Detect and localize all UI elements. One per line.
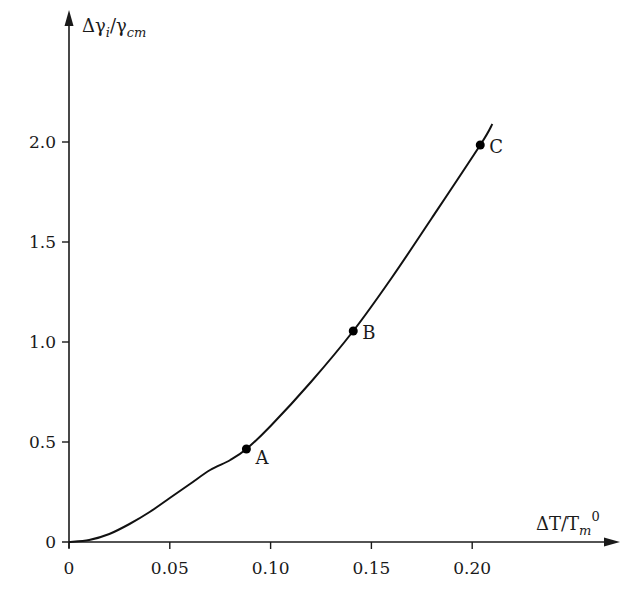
x-tick-label: 0	[64, 558, 75, 578]
y-tick-label: 1.5	[29, 232, 56, 252]
y-tick-label: 2.0	[29, 132, 56, 152]
x-tick-label: 0.15	[352, 558, 390, 578]
y-axis-arrow-icon	[65, 10, 74, 26]
x-axis-label: ΔT/Tm0	[536, 509, 600, 538]
y-axis-label: Δγi/γcm	[82, 15, 146, 40]
x-tick-label: 0.20	[453, 558, 491, 578]
x-axis-arrow-icon	[604, 538, 620, 547]
chart-canvas: 00.51.01.52.0 00.050.100.150.20 Δγi/γcm …	[0, 0, 636, 608]
point-b-marker	[349, 327, 358, 336]
x-ticks: 00.050.100.150.20	[64, 542, 492, 578]
x-tick-label: 0.10	[252, 558, 290, 578]
data-points: ABC	[242, 136, 503, 468]
data-curve	[69, 124, 492, 542]
point-a-label: A	[254, 447, 269, 468]
point-a-marker	[242, 445, 251, 454]
y-tick-label: 1.0	[29, 332, 56, 352]
point-c-label: C	[489, 136, 503, 157]
y-ticks: 00.51.01.52.0	[29, 132, 69, 552]
y-tick-label: 0	[45, 532, 56, 552]
x-tick-label: 0.05	[151, 558, 189, 578]
y-tick-label: 0.5	[29, 432, 56, 452]
point-c-marker	[476, 141, 485, 150]
point-b-label: B	[362, 322, 375, 343]
